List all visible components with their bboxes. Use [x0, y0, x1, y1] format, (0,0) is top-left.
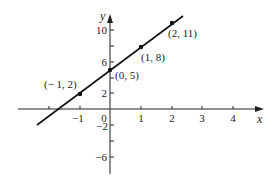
svg-text:1: 1: [138, 112, 144, 124]
y-tick-labels: 10 6 2 −2 −6: [95, 24, 108, 163]
svg-text:2: 2: [169, 112, 175, 124]
coordinate-plane: −1 0 1 2 3 4 x 10 6 2 −2 −6 y (− 1, 2) (…: [0, 0, 275, 180]
svg-text:−1: −1: [72, 112, 84, 124]
svg-text:10: 10: [96, 24, 108, 36]
svg-text:6: 6: [102, 56, 108, 68]
svg-text:3: 3: [199, 112, 205, 124]
svg-text:(2, 11): (2, 11): [168, 27, 197, 40]
svg-text:−6: −6: [95, 151, 107, 163]
svg-text:(1, 8): (1, 8): [141, 51, 165, 64]
y-ticks: [110, 30, 114, 157]
svg-text:4: 4: [230, 112, 236, 124]
svg-text:(− 1, 2): (− 1, 2): [44, 78, 77, 91]
svg-text:−2: −2: [96, 120, 108, 132]
y-axis-label: y: [99, 9, 106, 23]
y-axis-arrow-icon: [107, 14, 113, 23]
point-labels: (− 1, 2) (0, 5) (1, 8) (2, 11): [44, 27, 197, 91]
svg-text:(0, 5): (0, 5): [115, 69, 139, 82]
x-axis-label: x: [256, 112, 263, 126]
svg-text:2: 2: [102, 87, 108, 99]
